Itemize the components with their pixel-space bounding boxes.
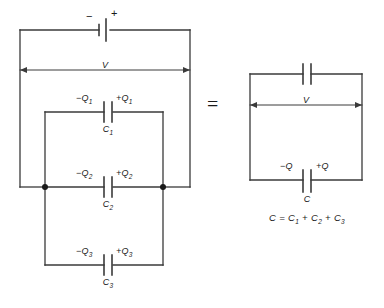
equation-term3-sub: 3 [341, 218, 345, 225]
capacitor-label-c3: C3 [103, 277, 114, 289]
charge-negative-c2-text: −Q [76, 168, 89, 178]
charge-label-negative-c3: −Q3 [76, 246, 93, 258]
capacitor-c3-text: C [103, 277, 110, 287]
charge-positive-c3-sub: 3 [129, 251, 133, 258]
circuit-diagram-canvas: − + V −Q1 +Q1 C1 −Q2 +Q2 C2 −Q3 +Q3 C3 =… [0, 0, 384, 308]
charge-label-positive-c2: +Q2 [116, 168, 133, 180]
equation-plus2: + [322, 212, 334, 223]
capacitor-c3-sub: 3 [109, 282, 113, 289]
charge-negative-c1-text: −Q [76, 93, 89, 103]
voltage-arrowhead-left-end [183, 67, 190, 73]
battery-negative-label: − [86, 10, 93, 22]
charge-label-positive-c3: +Q3 [116, 246, 133, 258]
voltage-arrowhead-right-start [250, 102, 257, 108]
charge-positive-c3-text: +Q [116, 246, 129, 256]
capacitor-label-c2: C2 [103, 199, 114, 211]
capacitor-c1-sub: 1 [109, 129, 113, 136]
charge-positive-c2-text: +Q [116, 168, 129, 178]
charge-label-negative-c1: −Q1 [76, 93, 93, 105]
charge-label-positive-equivalent: +Q [316, 161, 329, 171]
charge-negative-c1-sub: 1 [89, 98, 93, 105]
capacitor-c1-text: C [103, 124, 110, 134]
capacitor-c2-text: C [103, 199, 110, 209]
charge-label-negative-equivalent: −Q [280, 161, 293, 171]
charge-label-positive-c1: +Q1 [116, 93, 133, 105]
voltage-label-right: V [303, 95, 309, 105]
equation-operator: = [276, 212, 288, 223]
equivalence-equals-sign: = [207, 93, 218, 116]
charge-positive-c1-text: +Q [116, 93, 129, 103]
capacitor-c2-sub: 2 [109, 204, 113, 211]
capacitor-label-equivalent: C [304, 194, 311, 204]
equivalent-capacitance-equation: C=C1+C2+C3 [269, 212, 345, 225]
capacitor-label-c1: C1 [103, 124, 114, 136]
voltage-arrowhead-left-start [20, 67, 27, 73]
charge-positive-c2-sub: 2 [129, 173, 133, 180]
battery-positive-label: + [111, 7, 118, 19]
equation-plus1: + [299, 212, 311, 223]
charge-label-negative-c2: −Q2 [76, 168, 93, 180]
circuit-wires-svg [0, 0, 384, 308]
voltage-arrowhead-right-end [355, 102, 362, 108]
charge-positive-c1-sub: 1 [129, 98, 133, 105]
charge-negative-c3-sub: 3 [89, 251, 93, 258]
junction-dot-left [42, 184, 48, 190]
voltage-label-left: V [102, 60, 108, 70]
junction-dot-right [160, 184, 166, 190]
charge-negative-c2-sub: 2 [89, 173, 93, 180]
charge-negative-c3-text: −Q [76, 246, 89, 256]
